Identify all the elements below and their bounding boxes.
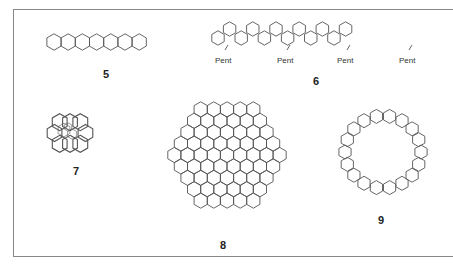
pent-substituent-3: Pent <box>337 56 353 65</box>
label-structure-5: 5 <box>103 68 109 80</box>
structure-7-helicene <box>47 114 93 153</box>
structure-6-ribbon <box>212 22 412 50</box>
structure-8-nanographene <box>168 102 286 208</box>
pent-substituent-2: Pent <box>277 56 293 65</box>
label-structure-8: 8 <box>220 239 226 251</box>
pent-substituent-4: Pent <box>399 56 415 65</box>
pent-substituent-1: Pent <box>215 56 231 65</box>
label-structure-6: 6 <box>313 75 319 87</box>
label-structure-7: 7 <box>73 165 79 177</box>
structure-9-nanoring <box>339 109 427 194</box>
structure-5-heptacene <box>47 34 146 50</box>
label-structure-9: 9 <box>378 214 384 226</box>
